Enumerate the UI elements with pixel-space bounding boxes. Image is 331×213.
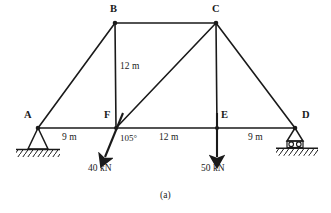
- figure-caption: (a): [160, 191, 171, 201]
- node-label-D: D: [302, 110, 310, 121]
- support-pin-A: [16, 128, 60, 157]
- node-label-E: E: [221, 110, 228, 121]
- roller-wheel-left: [289, 142, 294, 147]
- joint-C: [214, 21, 219, 26]
- dimension-label-B-F-height: 12 m: [120, 62, 139, 72]
- support-roller-D: [276, 128, 318, 156]
- load-label-40kn: 40 kN: [88, 164, 112, 174]
- member-F-C: [116, 23, 216, 128]
- truss-figure: A B C D E F 9 m 12 m 12 m 9 m 105° 40 kN…: [0, 0, 331, 213]
- node-label-F: F: [104, 110, 110, 121]
- roller-wheel-right: [297, 142, 302, 147]
- member-B-F: [115, 23, 116, 128]
- node-label-C: C: [212, 4, 220, 15]
- member-C-E: [216, 23, 217, 128]
- ground-hatch-A: [16, 150, 60, 157]
- load-label-50kn: 50 kN: [201, 164, 225, 174]
- dimension-label-F-E: 12 m: [159, 133, 178, 143]
- node-label-B: B: [110, 4, 117, 15]
- node-label-A: A: [24, 110, 32, 121]
- dimension-label-A-F: 9 m: [62, 133, 77, 143]
- truss-diagram-canvas: [0, 0, 331, 213]
- angle-label-at-F: 105°: [120, 134, 137, 143]
- joint-B: [113, 21, 118, 26]
- dimension-label-E-D: 9 m: [248, 133, 263, 143]
- ground-hatch-D: [276, 149, 318, 156]
